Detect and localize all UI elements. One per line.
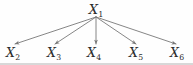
node-base-x5: X [129, 45, 138, 60]
edge-group [15, 17, 176, 44]
edge-x1-to-x2 [15, 17, 96, 44]
node-subscript-x4: 4 [96, 53, 101, 62]
node-label-x3: X3 [47, 47, 61, 60]
node-label-x2: X2 [6, 47, 20, 60]
node-base-x6: X [170, 45, 179, 60]
bottom-edge-strip [0, 63, 193, 65]
edge-x1-to-x3 [55, 17, 96, 44]
diagram-canvas: X1 X2 X3 X4 X5 X6 [0, 0, 193, 65]
node-subscript-x3: 3 [56, 53, 61, 62]
node-base-x3: X [47, 45, 56, 60]
node-label-x4: X4 [87, 47, 101, 60]
node-base-x4: X [87, 45, 96, 60]
node-base-x1: X [89, 2, 98, 17]
edge-x1-to-x5 [96, 17, 136, 44]
node-label-x5: X5 [129, 47, 143, 60]
node-label-x1: X1 [89, 3, 103, 16]
node-subscript-x1: 1 [98, 10, 103, 19]
edge-x1-to-x6 [96, 17, 176, 44]
node-subscript-x6: 6 [179, 53, 184, 62]
node-subscript-x2: 2 [15, 53, 20, 62]
node-base-x2: X [6, 45, 15, 60]
node-subscript-x5: 5 [138, 53, 143, 62]
node-label-x6: X6 [170, 47, 184, 60]
